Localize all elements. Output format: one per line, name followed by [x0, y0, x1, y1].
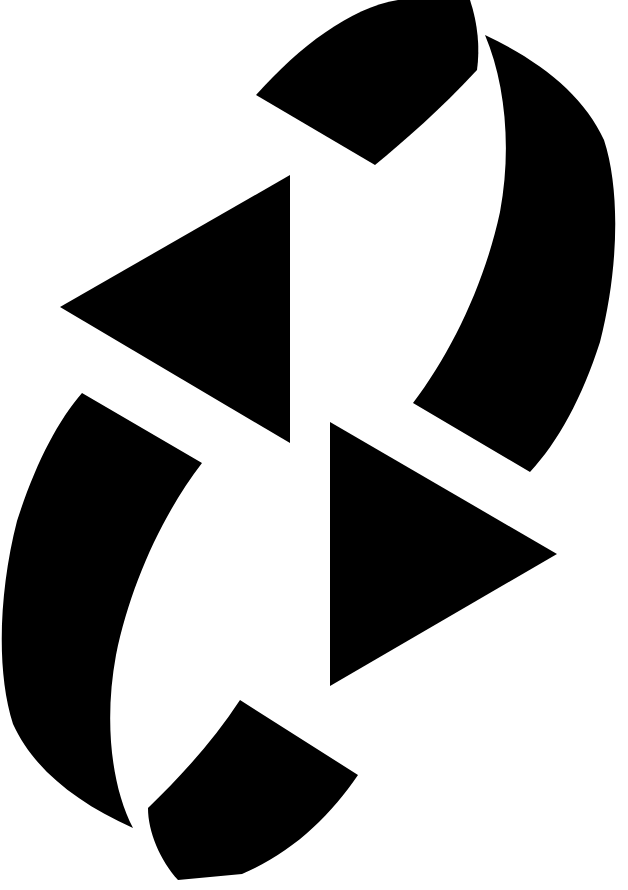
geometric-mark-canvas: [0, 0, 628, 890]
artboard: [0, 0, 628, 890]
